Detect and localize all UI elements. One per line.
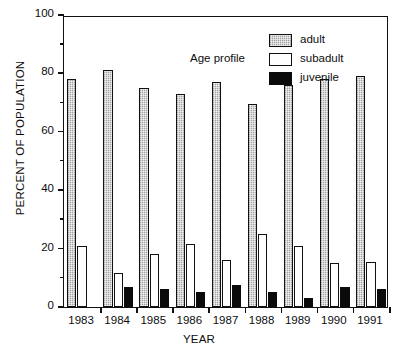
legend-label: juvenile (300, 71, 339, 83)
x-tick-mark (208, 307, 210, 313)
bar-juvenile-1987 (232, 285, 241, 307)
bar-juvenile-1986 (196, 292, 205, 307)
bar-group-1983 (64, 17, 100, 307)
bar-juvenile-1985 (160, 289, 169, 307)
bar-adult-1986 (176, 94, 185, 307)
bar-juvenile-1989 (304, 298, 313, 307)
x-tick-mark (389, 307, 391, 313)
bar-chart-figure: PERCENT OF POPULATION 020406080100 Age p… (0, 0, 398, 358)
chart-legend: Age profile adultsubadultjuvenile (190, 33, 380, 91)
bar-subadult-1985 (150, 254, 159, 307)
bar-adult-1984 (103, 70, 112, 307)
legend-label: adult (300, 33, 325, 45)
x-tick-mark (281, 307, 283, 313)
bar-subadult-1989 (294, 246, 303, 307)
x-tick-mark (136, 307, 138, 313)
legend-label: subadult (300, 52, 343, 64)
bar-adult-1990 (320, 79, 329, 307)
y-tick-label: 100 (14, 7, 54, 19)
y-axis-title: PERCENT OF POPULATION (14, 23, 26, 253)
bar-adult-1991 (356, 76, 365, 307)
x-tick-mark (317, 307, 319, 313)
bar-subadult-1986 (186, 244, 195, 307)
bar-group-1985 (136, 17, 172, 307)
x-tick-mark (172, 307, 174, 313)
bar-adult-1989 (284, 85, 293, 307)
bar-juvenile-1990 (340, 287, 349, 307)
bar-subadult-1988 (258, 234, 267, 307)
legend-swatch-adult-icon (269, 34, 292, 47)
legend-swatch-subadult-icon (269, 53, 292, 66)
y-tick-mark (58, 14, 64, 16)
bar-subadult-1984 (114, 273, 123, 307)
bar-adult-1988 (248, 104, 257, 307)
y-tick-label: 20 (14, 241, 54, 253)
bar-adult-1983 (67, 79, 76, 307)
bar-adult-1987 (212, 82, 221, 307)
x-tick-mark (100, 307, 102, 313)
bar-juvenile-1991 (377, 289, 386, 307)
legend-title: Age profile (190, 52, 245, 64)
y-tick-label: 80 (14, 65, 54, 77)
bar-group-1984 (100, 17, 136, 307)
bar-subadult-1990 (330, 263, 339, 307)
bar-juvenile-1988 (268, 292, 277, 307)
legend-swatch-juvenile-icon (269, 72, 292, 85)
bar-subadult-1987 (222, 260, 231, 307)
y-tick-label: 40 (14, 182, 54, 194)
bar-subadult-1983 (77, 246, 86, 307)
x-tick-mark (353, 307, 355, 313)
bar-adult-1985 (139, 88, 148, 307)
x-axis-title: YEAR (0, 333, 398, 345)
plot-area: 020406080100 Age profile adultsubadultju… (63, 16, 388, 308)
y-tick-label: 0 (14, 299, 54, 311)
x-tick-mark (245, 307, 247, 313)
bar-juvenile-1984 (124, 287, 133, 307)
bar-subadult-1991 (366, 262, 375, 307)
y-tick-label: 60 (14, 124, 54, 136)
x-tick-label-1991: 1991 (347, 314, 393, 326)
